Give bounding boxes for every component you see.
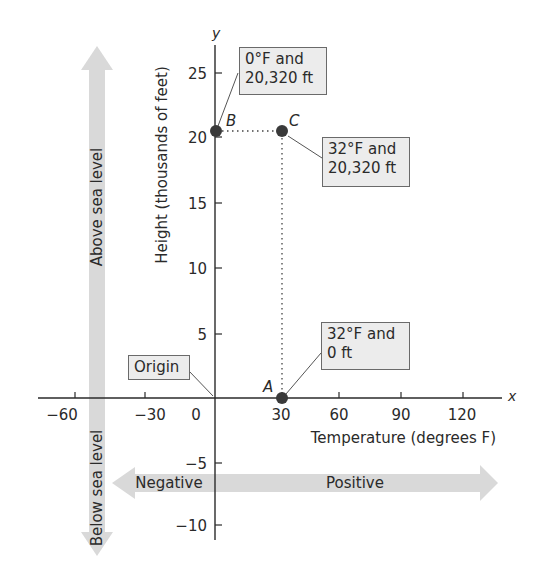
point-a-letter: A <box>262 378 273 396</box>
y-ticks <box>215 73 222 525</box>
point-b <box>210 125 222 137</box>
x-tick-labels: −60 −30 0 30 60 90 120 <box>46 406 476 424</box>
below-sea-level-label: Below sea level <box>88 430 106 547</box>
leader-lines <box>189 73 322 396</box>
svg-text:15: 15 <box>188 195 207 213</box>
svg-text:−10: −10 <box>175 517 207 535</box>
svg-text:20: 20 <box>188 129 207 147</box>
svg-text:−60: −60 <box>46 406 78 424</box>
svg-text:5: 5 <box>197 326 207 344</box>
point-b-annotation-line2: 20,320 ft <box>245 69 321 88</box>
point-a-annotation-line1: 32°F and <box>327 325 404 344</box>
point-c-annotation-line2: 20,320 ft <box>328 159 404 178</box>
point-c-letter: C <box>289 112 300 130</box>
x-axis-title: Temperature (degrees F) <box>310 429 496 447</box>
negative-label: Negative <box>135 474 202 492</box>
positive-label: Positive <box>326 474 384 492</box>
point-c <box>276 125 288 137</box>
y-tick-labels: 25 20 15 10 5 −5 −10 <box>175 65 207 535</box>
point-b-annotation-line1: 0°F and <box>245 50 321 69</box>
origin-annotation: Origin <box>128 355 190 380</box>
svg-text:60: 60 <box>329 406 348 424</box>
svg-text:90: 90 <box>391 406 410 424</box>
svg-text:0: 0 <box>191 406 201 424</box>
svg-text:120: 120 <box>448 406 477 424</box>
y-axis-title: Height (thousands of feet) <box>153 66 171 264</box>
svg-text:25: 25 <box>188 65 207 83</box>
svg-text:−30: −30 <box>134 406 166 424</box>
x-axis-variable: x <box>507 388 517 404</box>
above-sea-level-label: Above sea level <box>88 148 106 267</box>
svg-text:30: 30 <box>271 406 290 424</box>
point-a-annotation: 32°F and 0 ft <box>321 322 410 370</box>
point-c-annotation: 32°F and 20,320 ft <box>322 137 410 187</box>
svg-text:10: 10 <box>188 260 207 278</box>
point-b-annotation: 0°F and 20,320 ft <box>239 47 327 95</box>
point-a <box>276 392 288 404</box>
point-b-letter: B <box>226 112 236 130</box>
svg-text:−5: −5 <box>185 455 207 473</box>
point-a-annotation-line2: 0 ft <box>327 344 404 363</box>
point-c-annotation-line1: 32°F and <box>328 140 404 159</box>
y-axis-variable: y <box>211 25 221 41</box>
